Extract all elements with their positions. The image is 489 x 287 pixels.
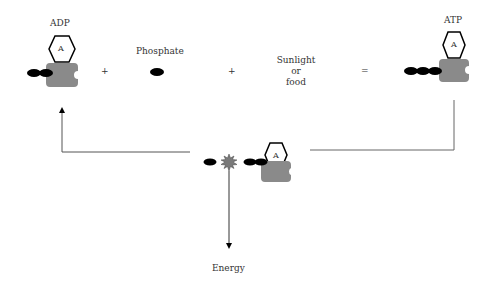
phosphate-icon <box>39 69 53 77</box>
adenine-letter: A <box>451 39 457 50</box>
adenine-letter: A <box>273 150 279 161</box>
protein-shape-icon <box>439 59 469 82</box>
atp-to-hydrolysis-line <box>310 100 454 150</box>
atp-label: ATP <box>444 15 462 26</box>
energy-source-line: food <box>273 77 319 88</box>
equals-sign: = <box>361 66 369 77</box>
phosphate-icon <box>27 69 41 77</box>
energy-source-label: Sunlight or food <box>273 55 319 88</box>
phosphate-icon <box>404 67 418 75</box>
phosphate-label: Phosphate <box>136 46 184 57</box>
atp-cycle-diagram <box>0 0 489 287</box>
phosphate-icon <box>255 159 268 166</box>
phosphate-icon <box>416 67 430 75</box>
plus-sign: + <box>228 66 236 77</box>
atp-molecule <box>404 32 469 82</box>
free-phosphate-icon <box>150 68 164 76</box>
adenine-letter: A <box>58 43 64 54</box>
energy-source-line: or <box>273 66 319 77</box>
phosphate-icon <box>428 67 442 75</box>
energy-label: Energy <box>212 263 245 274</box>
return-arrow-line <box>62 110 190 152</box>
released-phosphate-icon <box>204 159 217 166</box>
energy-source-line: Sunlight <box>273 55 319 66</box>
adp-molecule <box>27 36 78 87</box>
adp-label: ADP <box>50 18 70 29</box>
plus-sign: + <box>101 66 109 77</box>
energy-burst-icon <box>221 154 237 171</box>
